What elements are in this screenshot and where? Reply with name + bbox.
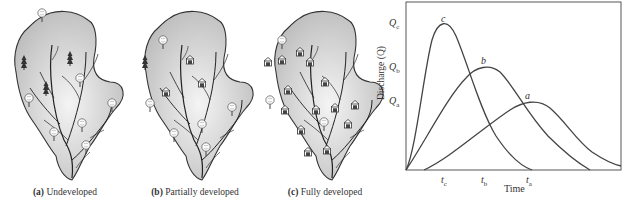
tick-ta: ta: [526, 174, 532, 188]
curve-c: [406, 24, 532, 170]
panel-undeveloped: (a) Undeveloped: [0, 0, 130, 209]
tick-qa: Qa: [389, 95, 399, 109]
caption-undeveloped: (a) Undeveloped: [0, 187, 130, 197]
panel-partially-developed: (b) Partially developed: [130, 0, 260, 209]
curve-label-b: b: [481, 55, 486, 66]
y-axis-label-text: Discharge (Q): [376, 46, 386, 100]
caption-label: Undeveloped: [46, 187, 97, 197]
watershed-fully-developed-illustration: [260, 0, 390, 185]
curve-label-c: c: [441, 13, 445, 24]
curve-a: [424, 102, 621, 170]
y-axis-label: Discharge (Q): [376, 46, 386, 100]
watershed-undeveloped-illustration: [0, 0, 130, 185]
caption-tag: (b): [151, 187, 163, 197]
tick-qb: Qb: [389, 61, 400, 75]
caption-partially-developed: (b) Partially developed: [130, 187, 260, 197]
caption-label: Fully developed: [301, 187, 362, 197]
panel-fully-developed: (c) Fully developed: [260, 0, 390, 209]
x-axis-label: Time: [504, 183, 525, 194]
curve-label-a: a: [525, 90, 530, 101]
tick-tb: tb: [481, 174, 487, 188]
caption-fully-developed: (c) Fully developed: [260, 187, 390, 197]
caption-tag: (c): [288, 187, 299, 197]
hydrograph-chart: [380, 0, 643, 209]
tick-tc: tc: [441, 174, 447, 188]
tick-qc: Qc: [389, 17, 399, 31]
caption-label: Partially developed: [165, 187, 239, 197]
caption-tag: (a): [33, 187, 44, 197]
watershed-partially-developed-illustration: [130, 0, 260, 185]
